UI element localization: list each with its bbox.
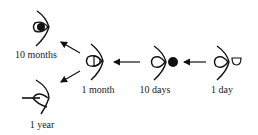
eye-1-month-icon <box>87 44 104 80</box>
label-1-month: 1 month <box>81 85 114 95</box>
label-10-days: 10 days <box>140 85 171 95</box>
arrow-1month-to-10months <box>61 42 80 53</box>
eye-development-diagram <box>0 0 258 135</box>
arrow-1month-to-1year <box>61 71 80 82</box>
eye-10-months-icon <box>34 11 50 46</box>
label-10-months: 10 months <box>15 50 57 60</box>
label-1-year: 1 year <box>30 120 55 130</box>
eye-1-day-icon <box>215 46 242 80</box>
label-1-day: 1 day <box>211 85 233 95</box>
eye-1-year-icon <box>22 80 49 114</box>
eye-10-days-icon <box>152 46 179 80</box>
